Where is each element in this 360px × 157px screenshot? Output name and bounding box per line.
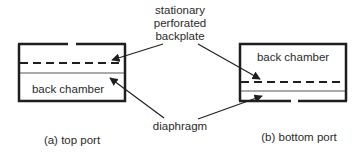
panel-bottom-port: back chamber (b) bottom port [239,44,347,143]
panel-top-port: back chamber (a) top port [18,44,126,146]
callout-label-line-2: perforated [154,17,206,29]
panel-caption: (b) bottom port [261,131,337,143]
callout-backplate: stationary perforated backplate [112,4,260,79]
chamber-label: back chamber [32,83,104,95]
arrow-to-backplate-a [112,44,163,60]
arrow-to-backplate-b [198,44,260,79]
arrow-to-diaphragm-a [110,78,164,118]
panel-caption: (a) top port [44,134,101,146]
arrow-to-diaphragm-b [198,96,262,119]
microphone-port-diagram: back chamber (a) top port back chamber (… [0,0,360,157]
callout-label-line-1: stationary [155,4,205,16]
chamber-label: back chamber [257,51,329,63]
callout-label: diaphragm [153,120,207,132]
callout-label-line-3: backplate [155,30,204,42]
